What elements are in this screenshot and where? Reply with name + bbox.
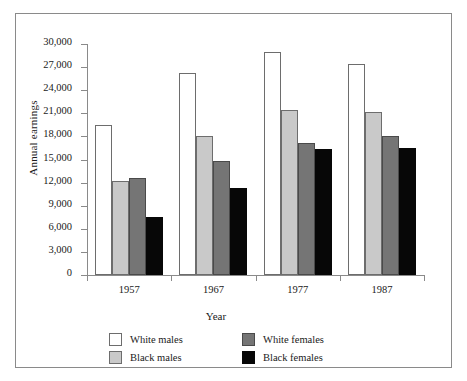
legend-swatch-icon: [109, 351, 122, 364]
chart-figure: Annual earnings 03,0006,0009,00012,00015…: [15, 13, 452, 368]
bar: [230, 188, 247, 275]
y-axis-tick: 3,000: [81, 252, 87, 253]
x-axis-tick: [424, 275, 425, 281]
legend-swatch-icon: [242, 333, 255, 346]
legend-label: Black males: [130, 352, 182, 363]
y-axis-tick: 15,000: [81, 160, 87, 161]
bar: [129, 178, 146, 275]
bar: [179, 73, 196, 275]
bar: [315, 149, 332, 275]
chart-legend: White malesWhite femalesBlack malesBlack…: [109, 330, 369, 366]
x-axis-tick: [256, 275, 257, 281]
bar: [264, 52, 281, 275]
legend-swatch-icon: [242, 351, 255, 364]
bar: [196, 136, 213, 275]
y-axis-tick-label: 3,000: [48, 244, 72, 255]
bar: [365, 112, 382, 275]
y-axis-line: [87, 44, 88, 276]
y-axis-tick: 24,000: [81, 90, 87, 91]
y-axis-tick: 21,000: [81, 113, 87, 114]
y-axis-label: Annual earnings: [27, 73, 39, 203]
x-axis-category-label: 1977: [263, 284, 333, 295]
x-axis-tick: [340, 275, 341, 281]
legend-item: White males: [109, 330, 236, 348]
legend-label: Black females: [263, 352, 323, 363]
bar: [382, 136, 399, 275]
legend-swatch-icon: [109, 333, 122, 346]
bar: [348, 64, 365, 275]
y-axis-tick: 9,000: [81, 206, 87, 207]
y-axis-tick-label: 9,000: [48, 198, 72, 209]
legend-item: Black males: [109, 348, 236, 366]
legend-label: White males: [130, 334, 183, 345]
plot-area: 03,0006,0009,00012,00015,00018,00021,000…: [87, 44, 424, 276]
y-axis-tick-label: 30,000: [43, 36, 72, 47]
y-axis-tick: 18,000: [81, 136, 87, 137]
bar: [213, 161, 230, 275]
y-axis-tick: 27,000: [81, 67, 87, 68]
x-axis-category-label: 1967: [178, 284, 248, 295]
y-axis-tick-label: 0: [67, 267, 72, 278]
x-axis-label: Year: [16, 310, 416, 322]
bar: [298, 143, 315, 275]
y-axis-tick: 12,000: [81, 183, 87, 184]
bar: [146, 217, 163, 275]
x-axis-category-label: 1987: [347, 284, 417, 295]
x-axis-tick: [171, 275, 172, 281]
legend-label: White females: [263, 334, 324, 345]
x-axis-category-label: 1957: [94, 284, 164, 295]
bar: [399, 148, 416, 275]
y-axis-tick-label: 15,000: [43, 152, 72, 163]
y-axis-tick: 30,000: [81, 44, 87, 45]
legend-item: Black females: [242, 348, 369, 366]
bar: [112, 181, 129, 275]
y-axis-tick-label: 12,000: [43, 175, 72, 186]
bar: [281, 110, 298, 275]
y-axis-tick-label: 24,000: [43, 82, 72, 93]
y-axis-tick-label: 27,000: [43, 59, 72, 70]
y-axis-tick-label: 21,000: [43, 105, 72, 116]
y-axis-tick-label: 18,000: [43, 128, 72, 139]
x-axis-tick: [87, 275, 88, 281]
bar: [95, 125, 112, 275]
y-axis-tick: 6,000: [81, 229, 87, 230]
y-axis-tick-label: 6,000: [48, 221, 72, 232]
legend-item: White females: [242, 330, 369, 348]
